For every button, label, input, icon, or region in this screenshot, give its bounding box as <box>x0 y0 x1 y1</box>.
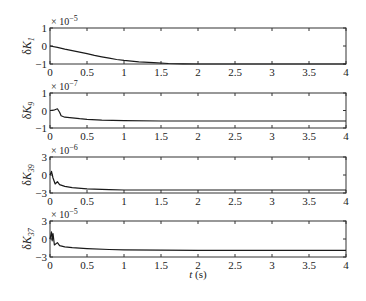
x-tick-label: 0 <box>47 259 53 271</box>
x-tick-label: 2.5 <box>228 195 242 207</box>
x-tick-label: 3.5 <box>302 195 316 207</box>
x-tick-label: 1 <box>121 66 127 78</box>
data-line <box>50 232 346 251</box>
y-tick-label: 0 <box>42 105 48 117</box>
exponent-label: × 10−6 <box>51 143 78 156</box>
subplot-3: 00.511.522.533.5430−3× 10−6δK39 <box>20 143 349 207</box>
y-tick-label: −1 <box>35 58 47 70</box>
data-line <box>50 109 346 121</box>
x-tick-label: 1.5 <box>154 66 168 78</box>
x-tick-label: 0 <box>47 130 53 142</box>
y-tick-label: 1 <box>42 87 48 99</box>
y-axis-label: δK1 <box>20 37 36 55</box>
x-tick-label: 0.5 <box>80 259 94 271</box>
y-tick-label: −3 <box>35 251 47 263</box>
x-tick-label: 3 <box>269 259 275 271</box>
x-tick-label: 2.5 <box>228 66 242 78</box>
axes-box <box>50 221 346 257</box>
x-tick-label: 0.5 <box>80 195 94 207</box>
x-tick-label: 1 <box>121 195 127 207</box>
axes-box <box>50 28 346 64</box>
x-tick-label: 3 <box>269 195 275 207</box>
x-tick-label: 2.5 <box>228 259 242 271</box>
x-tick-label: 2 <box>195 130 201 142</box>
y-axis-label: δK39 <box>20 164 36 186</box>
x-tick-label: 0.5 <box>80 130 94 142</box>
x-tick-label: 2 <box>195 195 201 207</box>
x-tick-label: 4 <box>343 259 349 271</box>
y-tick-label: 0 <box>42 169 48 181</box>
x-tick-label: 1.5 <box>154 259 168 271</box>
axes-box <box>50 157 346 193</box>
x-tick-label: 3.5 <box>302 259 316 271</box>
y-axis-label: δK37 <box>20 227 36 250</box>
x-tick-label: 4 <box>343 66 349 78</box>
y-axis-label: δK9 <box>20 102 36 120</box>
y-tick-label: 1 <box>42 22 48 34</box>
x-axis-label: t (s) <box>189 268 207 281</box>
data-line <box>50 171 346 190</box>
x-tick-label: 0 <box>47 66 53 78</box>
x-tick-label: 3 <box>269 66 275 78</box>
x-tick-label: 4 <box>343 130 349 142</box>
x-tick-label: 3.5 <box>302 130 316 142</box>
exponent-label: × 10−7 <box>51 79 78 92</box>
x-tick-label: 0 <box>47 195 53 207</box>
y-tick-label: 3 <box>42 151 48 163</box>
y-tick-label: 0 <box>42 40 48 52</box>
y-tick-label: 3 <box>42 215 48 227</box>
subplot-4: 00.511.522.533.5430−3× 10−5δK37 <box>20 207 349 271</box>
figure: 00.511.522.533.5410−1× 10−5δK100.511.522… <box>0 0 366 301</box>
x-tick-label: 2 <box>195 66 201 78</box>
x-tick-label: 1.5 <box>154 130 168 142</box>
subplot-1: 00.511.522.533.5410−1× 10−5δK1 <box>20 14 349 78</box>
x-tick-label: 2.5 <box>228 130 242 142</box>
y-tick-label: −3 <box>35 187 47 199</box>
subplot-2: 00.511.522.533.5410−1× 10−7δK9 <box>20 79 349 142</box>
x-tick-label: 4 <box>343 195 349 207</box>
y-tick-label: −1 <box>35 122 47 134</box>
y-tick-label: 0 <box>42 233 48 245</box>
x-tick-label: 1.5 <box>154 195 168 207</box>
x-tick-label: 1 <box>121 130 127 142</box>
axes-box <box>50 93 346 128</box>
exponent-label: × 10−5 <box>51 207 78 220</box>
x-tick-label: 3 <box>269 130 275 142</box>
x-tick-label: 1 <box>121 259 127 271</box>
x-tick-label: 3.5 <box>302 66 316 78</box>
x-tick-label: 0.5 <box>80 66 94 78</box>
exponent-label: × 10−5 <box>51 14 78 27</box>
